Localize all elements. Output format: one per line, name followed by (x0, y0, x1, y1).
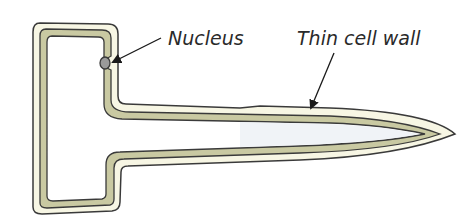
cell-wall-label: Thin cell wall (297, 27, 421, 49)
nucleus-label: Nucleus (168, 27, 244, 49)
root-hair-cell-diagram: Nucleus Thin cell wall (0, 0, 475, 223)
cell-wall-arrow (311, 53, 334, 108)
nucleus (100, 57, 110, 69)
nucleus-arrow (113, 38, 161, 62)
